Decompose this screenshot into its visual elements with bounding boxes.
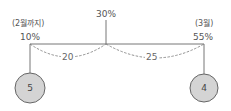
right-gap-label: 25 [145, 53, 158, 62]
right-period-label: (3월) [195, 20, 213, 28]
left-value-label: 10% [20, 33, 40, 42]
left-period-label: (2월까지) [12, 20, 44, 28]
center-value-label: 30% [96, 10, 116, 19]
left-gap-label: 20 [61, 53, 74, 62]
left-circle-number: 5 [24, 84, 36, 93]
right-circle-number: 4 [198, 84, 210, 93]
right-value-label: 55% [193, 33, 213, 42]
